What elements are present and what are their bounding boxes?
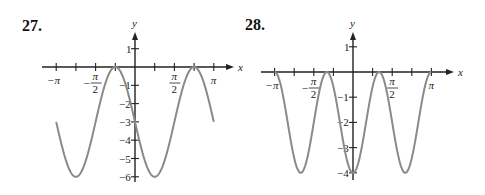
y-axis-label: y	[349, 17, 355, 29]
svg-text:2: 2	[311, 88, 317, 100]
svg-text:2: 2	[389, 88, 395, 100]
x-axis-label: x	[457, 66, 463, 78]
y-axis-arrow-icon	[350, 32, 356, 40]
x-tick-label: −π	[266, 79, 279, 91]
x-tick-label: −π2	[302, 75, 320, 100]
svg-text:π: π	[311, 75, 317, 87]
x-tick-label: π2	[387, 75, 398, 100]
svg-text:π: π	[389, 75, 395, 87]
x-tick-label: π	[428, 79, 434, 91]
x-axis-arrow-icon	[446, 69, 454, 75]
y-tick-label: −4	[337, 167, 349, 179]
svg-text:−: −	[302, 82, 308, 94]
y-tick-label: −1	[337, 91, 349, 103]
graph-28: xy−ππ−π2π21−1−2−3−4	[0, 0, 485, 195]
y-tick-label: 1	[344, 41, 350, 53]
